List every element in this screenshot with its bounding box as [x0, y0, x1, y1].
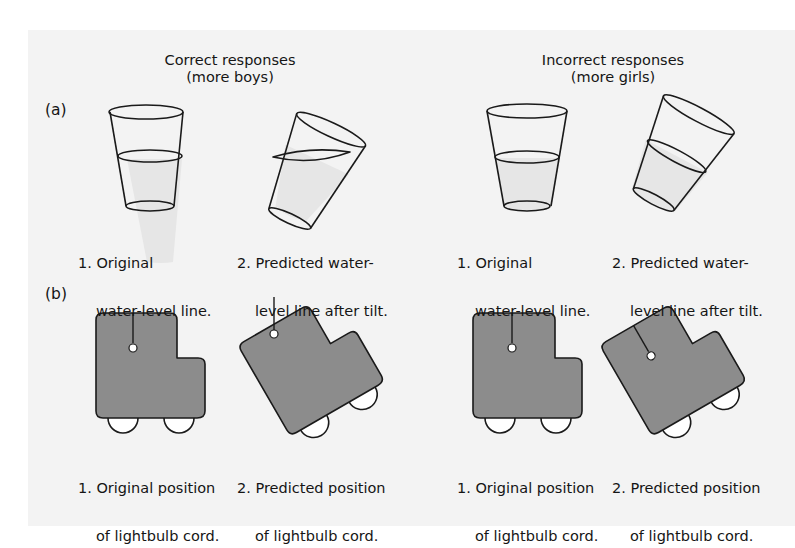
caption-a2-line2: level line after tilt.	[237, 303, 388, 319]
caption-b3-line2: of lightbulb cord.	[457, 528, 598, 544]
glass-tilted-incorrect	[616, 90, 737, 223]
caption-a3: 1. Original water-level line.	[457, 223, 590, 335]
caption-a4: 2. Predicted water- level line after til…	[612, 223, 763, 335]
caption-b4: 2. Predicted position of lightbulb cord.	[612, 448, 761, 548]
caption-a3-line2: water-level line.	[457, 303, 590, 319]
caption-b1: 1. Original position of lightbulb cord.	[78, 448, 219, 548]
caption-b4-line2: of lightbulb cord.	[612, 528, 761, 544]
caption-a1-line2: water-level line.	[78, 303, 211, 319]
lightbulb-icon	[129, 344, 137, 352]
caption-b3-line1: 1. Original position	[457, 480, 598, 496]
lightbulb-icon	[508, 344, 516, 352]
glass-original-incorrect	[487, 104, 567, 211]
caption-b1-line1: 1. Original position	[78, 480, 219, 496]
caption-a4-line1: 2. Predicted water-	[612, 255, 763, 271]
caption-a1-line1: 1. Original	[78, 255, 211, 271]
caption-b2: 2. Predicted position of lightbulb cord.	[237, 448, 386, 548]
caption-a3-line1: 1. Original	[457, 255, 590, 271]
glass-tilted-correct	[253, 107, 368, 239]
caption-b2-line2: of lightbulb cord.	[237, 528, 386, 544]
caption-a1: 1. Original water-level line.	[78, 223, 211, 335]
caption-b1-line2: of lightbulb cord.	[78, 528, 219, 544]
caption-b3: 1. Original position of lightbulb cord.	[457, 448, 598, 548]
caption-a4-line2: level line after tilt.	[612, 303, 763, 319]
caption-b4-line1: 2. Predicted position	[612, 480, 761, 496]
caption-a2: 2. Predicted water- level line after til…	[237, 223, 388, 335]
caption-b2-line1: 2. Predicted position	[237, 480, 386, 496]
caption-a2-line1: 2. Predicted water-	[237, 255, 388, 271]
